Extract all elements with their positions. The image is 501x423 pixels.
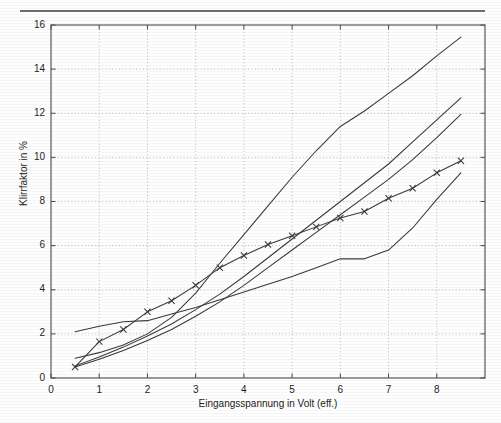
data-point-marker	[385, 195, 391, 201]
y-tick-label: 14	[15, 63, 45, 74]
x-tick-label: 5	[277, 384, 307, 395]
data-point-marker	[265, 241, 271, 247]
document-page: 0246810121416 012345678 Klirrfaktor in %…	[0, 0, 501, 423]
data-point-marker	[96, 338, 102, 344]
y-axis-label: Klirrfaktor in %	[18, 119, 29, 229]
data-point-marker	[313, 224, 319, 230]
x-tick-label: 7	[374, 384, 404, 395]
data-point-marker	[120, 326, 126, 332]
chart-figure: 0246810121416 012345678 Klirrfaktor in %…	[0, 0, 501, 423]
x-tick-label: 6	[325, 384, 355, 395]
gridlines	[51, 25, 485, 378]
data-point-marker	[289, 233, 295, 239]
x-tick-label: 0	[36, 384, 66, 395]
data-point-marker	[144, 309, 150, 315]
data-point-marker	[458, 158, 464, 164]
y-tick-label: 4	[15, 283, 45, 294]
y-tick-label: 12	[15, 107, 45, 118]
data-point-marker	[410, 185, 416, 191]
series-line-3	[75, 161, 461, 367]
data-point-marker	[72, 364, 78, 370]
y-tick-label: 0	[15, 372, 45, 383]
x-tick-label: 1	[84, 384, 114, 395]
x-tick-label: 4	[229, 384, 259, 395]
series-line-0	[75, 37, 461, 358]
y-tick-label: 6	[15, 239, 45, 250]
x-axis-label: Eingangsspannung in Volt (eff.)	[51, 398, 485, 409]
x-tick-label: 2	[132, 384, 162, 395]
x-tick-label: 8	[422, 384, 452, 395]
data-point-marker	[217, 265, 223, 271]
y-tick-label: 16	[15, 19, 45, 30]
series-line-4	[75, 173, 461, 332]
line-chart-plot	[0, 0, 501, 423]
data-point-marker	[168, 298, 174, 304]
data-point-marker	[361, 208, 367, 214]
y-tick-label: 2	[15, 327, 45, 338]
series-line-1	[75, 98, 461, 366]
data-series-layer	[72, 37, 464, 370]
x-tick-label: 3	[181, 384, 211, 395]
series-line-2	[75, 114, 461, 367]
